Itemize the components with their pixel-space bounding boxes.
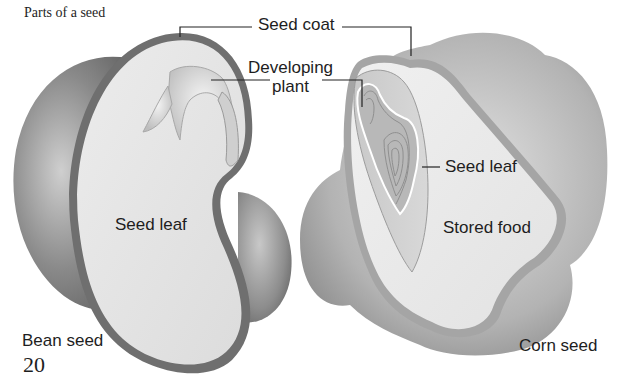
label-stored-food: Stored food — [443, 219, 531, 236]
label-bean-seed-leaf: Seed leaf — [115, 216, 187, 233]
label-corn-seed-leaf: Seed leaf — [445, 158, 517, 175]
seed-coat-leader-corn — [342, 27, 411, 56]
seed-diagram: Parts of a seed Seed coat Developing pla… — [0, 0, 617, 387]
label-seed-coat: Seed coat — [258, 16, 335, 33]
label-developing-plant-line2: plant — [248, 77, 333, 96]
caption-bean-seed: Bean seed — [22, 332, 103, 349]
figure-title: Parts of a seed — [24, 6, 105, 20]
label-developing-plant: Developing plant — [248, 58, 333, 96]
page-number: 20 — [23, 354, 45, 376]
corn-seed — [300, 33, 607, 356]
caption-corn-seed: Corn seed — [519, 337, 597, 354]
label-developing-plant-line1: Developing — [248, 58, 333, 77]
